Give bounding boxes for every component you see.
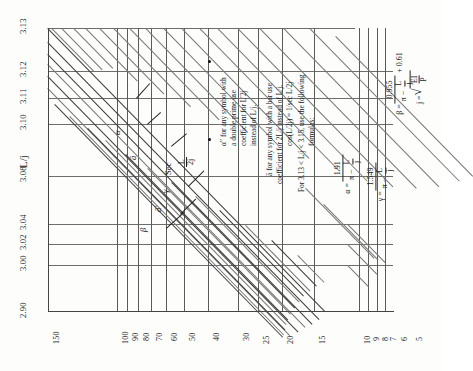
callout-leader: [147, 112, 161, 125]
formula-j-EI: EI: [411, 74, 419, 86]
curve-line: [73, 28, 113, 69]
y-tick-label: 3.10: [18, 114, 28, 130]
x-tick-label: 20: [286, 336, 295, 344]
note-line: formulas:: [308, 118, 316, 146]
curve-label-alpha: α: [112, 131, 122, 135]
curve-label-sec-fraction: L 2j: [178, 156, 196, 168]
formula-beta-pi: π −: [400, 91, 409, 102]
curve-label-gamma: γ: [160, 190, 170, 193]
note-line: For 3.13 < L/j < 3.15, use the following: [298, 75, 306, 192]
note-line: a double prime use: [230, 90, 238, 146]
y-tick-label: 3.02: [18, 234, 28, 250]
note-bullet: [208, 60, 211, 63]
x-tick-label: 10: [363, 336, 372, 344]
formula-beta-L: L: [396, 79, 404, 88]
note-line: ā for any symbol with a bar use: [266, 83, 274, 176]
y-tick-label: 3.11: [18, 89, 28, 104]
formula-alpha: α = 1.91 π − L j: [334, 144, 361, 204]
y-tick-label: 3.04: [18, 214, 28, 230]
curve-line: [297, 255, 324, 283]
note-line: coefficient for 2L/j instead of L/j.: [276, 85, 284, 184]
curve-label-alpha-bar-prime: ā′: [153, 206, 163, 212]
formula-j-lhs: j =: [415, 95, 424, 104]
formula-alpha-numerator: 1.91: [334, 159, 342, 177]
x-tick-label: 150: [52, 331, 61, 344]
formula-alpha-j: j: [352, 159, 361, 165]
x-tick-label: 15: [318, 336, 327, 344]
y-axis-title: L/j: [17, 155, 29, 168]
formula-j: j = √ EI P: [410, 56, 429, 118]
notes-block: α′′ for any symbol with a double prime u…: [214, 16, 334, 196]
x-tick-label: 6: [400, 337, 409, 341]
formula-gamma-pi: π −: [381, 178, 390, 189]
formula-alpha-pi: π −: [348, 169, 357, 180]
formula-gamma-j: j: [385, 167, 394, 173]
formula-gamma-numerator: 1.549: [367, 166, 375, 188]
formula-j-P: P: [419, 75, 428, 83]
curve-label-alpha-bar: ā: [128, 156, 138, 160]
x-tick-label: 30: [242, 333, 251, 341]
note-bullet: [208, 138, 211, 141]
y-tick-label: 3.08: [18, 166, 28, 182]
x-tick-label: 25: [262, 336, 271, 344]
formula-beta-numerator: 0.955: [386, 79, 394, 101]
formula-gamma: γ = 1.549 π − L j: [367, 151, 394, 213]
note-line: instead of L/j.: [250, 105, 258, 146]
sec-text: Sec: [163, 163, 173, 175]
radical-icon: √: [410, 88, 429, 95]
x-tick-label: 5: [415, 337, 424, 341]
sec-fraction-denominator: 2j: [186, 157, 195, 167]
sec-fraction-numerator: L: [178, 157, 186, 166]
formula-gamma-L: L: [377, 166, 385, 175]
gridline-vertical: [208, 28, 209, 311]
formula-alpha-L: L: [344, 158, 352, 167]
x-tick-label: 90: [131, 333, 140, 341]
x-tick-label: 7: [389, 337, 398, 341]
curve-label-sec: Sec: [163, 163, 173, 175]
y-axis-line: [48, 28, 49, 312]
x-tick-label: 100: [121, 331, 130, 344]
formula-alpha-lhs: α =: [343, 183, 352, 194]
note-line: α′′ for any symbol with: [220, 77, 228, 146]
x-tick-label: 80: [142, 333, 151, 341]
note-line: cos(L/2j) = 1/sec L/2j: [286, 82, 294, 146]
formula-beta-lhs: β =: [395, 104, 404, 115]
curve-label-beta: β: [138, 228, 148, 232]
x-axis-line: [48, 311, 394, 312]
x-tick-label: 40: [212, 333, 221, 341]
formula-gamma-lhs: γ =: [376, 191, 385, 201]
x-tick-label: 60: [170, 333, 179, 341]
y-tick-label: 3.12: [18, 61, 28, 77]
x-tick-label: 50: [188, 333, 197, 341]
note-line: coefficient for L′2j: [240, 90, 248, 146]
y-tick-label: 2.90: [18, 302, 28, 318]
formula-beta-plus: + 0.61: [395, 52, 404, 73]
y-tick-label: 3.13: [18, 18, 28, 34]
y-tick-label: 3.00: [18, 255, 28, 271]
x-tick-label: 70: [155, 333, 164, 341]
x-tick-label: 9: [372, 337, 381, 341]
